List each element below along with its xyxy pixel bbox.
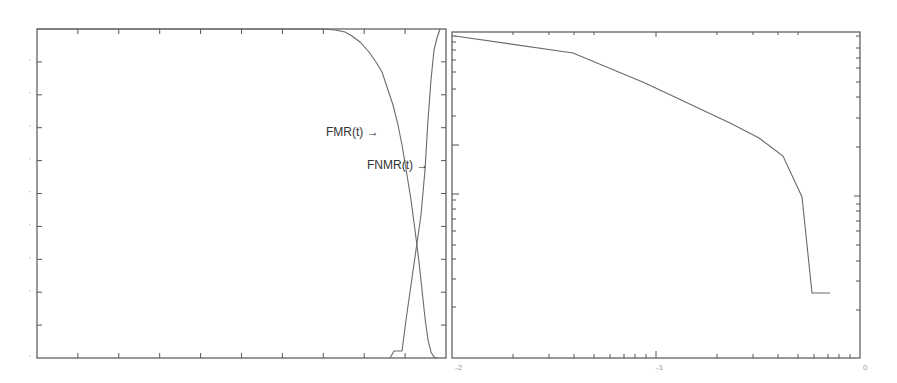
fnmr-annotation: FNMR(t) → [367,158,428,172]
svg-text:': ' [29,255,31,264]
plot-frame [452,32,860,358]
x-axis-tick-labels: -2 -1 0 [455,363,868,372]
svg-text:': ' [29,57,31,66]
fmr-curve [37,29,437,358]
y-axis-ticks [452,36,860,310]
roc-plot: -2 -1 0 [445,0,897,383]
fmr-annotation: FMR(t) → [326,125,379,139]
x-tick-label-left: -2 [455,363,463,372]
x-axis-ticks [513,32,850,358]
x-tick-label-right: 0 [863,363,868,372]
svg-text:': ' [29,90,31,99]
roc-chart: -2 -1 0 [445,0,897,383]
svg-text:': ' [29,189,31,198]
x-axis-ticks [78,29,405,358]
fmr-fnmr-plot: ' ' ' ' ' ' ' ' ' [0,0,450,383]
svg-text:': ' [29,123,31,132]
y-axis-tick-labels: ' ' ' ' ' ' ' ' ' [29,57,31,362]
fmr-fnmr-chart: ' ' ' ' ' ' ' ' ' [0,0,450,383]
svg-text:': ' [29,156,31,165]
y-axis-ticks [37,62,446,325]
fnmr-curve [390,29,440,358]
svg-text:': ' [29,222,31,231]
roc-curve [455,36,830,293]
svg-text:': ' [29,288,31,297]
x-tick-label-middle: -1 [656,363,664,372]
svg-text:': ' [29,353,31,362]
